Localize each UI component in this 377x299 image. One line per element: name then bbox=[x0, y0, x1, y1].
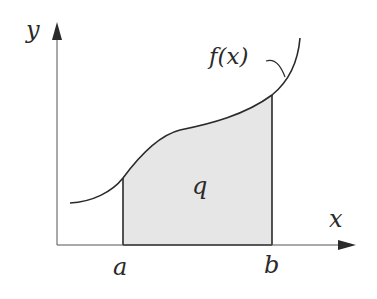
area-label: q bbox=[192, 174, 207, 198]
x-axis-label: x bbox=[329, 207, 343, 231]
lower-bound-label: a bbox=[113, 255, 127, 279]
function-label: f(x) bbox=[209, 45, 248, 68]
shaded-area-q bbox=[123, 95, 272, 245]
upper-bound-label: b bbox=[264, 253, 279, 277]
y-axis-arrow-icon bbox=[52, 22, 62, 40]
function-label-leader bbox=[266, 60, 285, 77]
y-axis-label: y bbox=[26, 18, 40, 42]
integral-diagram bbox=[0, 0, 377, 299]
x-axis-arrow-icon bbox=[338, 240, 356, 250]
